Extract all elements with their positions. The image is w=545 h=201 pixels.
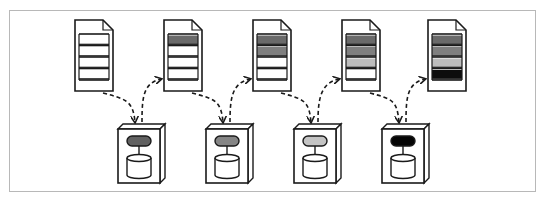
table-row [79, 47, 109, 56]
arrow-down [281, 93, 311, 122]
document-icon [75, 20, 113, 91]
arrow-down [192, 93, 223, 122]
table-row [346, 47, 376, 56]
server-icon [206, 124, 253, 183]
arrow-down [370, 93, 399, 122]
server-icon [382, 124, 429, 183]
database-icon [391, 155, 415, 179]
database-icon [303, 155, 327, 179]
arrow-up [230, 79, 250, 122]
table-row [168, 59, 198, 68]
table-row [432, 47, 462, 56]
document-icon [164, 20, 202, 91]
database-icon [127, 155, 151, 179]
arrow-up [142, 79, 161, 122]
table-row [346, 70, 376, 79]
database-icon [215, 155, 239, 179]
table-row [79, 36, 109, 45]
table-row [79, 70, 109, 79]
process-pill-icon [127, 136, 151, 146]
document-icon [342, 20, 380, 91]
table-row [432, 70, 462, 79]
arrow-down [103, 93, 135, 122]
arrow-up [406, 79, 425, 122]
servers-layer [118, 124, 429, 183]
table-row [432, 59, 462, 68]
table-row [79, 59, 109, 68]
table-row [168, 36, 198, 45]
document-icon [428, 20, 466, 91]
table-row [257, 70, 287, 79]
table-row [168, 70, 198, 79]
document-icon [253, 20, 291, 91]
table-row [168, 47, 198, 56]
pipeline-diagram [0, 0, 545, 201]
process-pill-icon [391, 136, 415, 146]
process-pill-icon [303, 136, 327, 146]
table-row [432, 36, 462, 45]
documents-layer [75, 20, 466, 91]
table-row [257, 59, 287, 68]
table-row [346, 36, 376, 45]
table-row [257, 47, 287, 56]
arrow-up [318, 79, 339, 122]
process-pill-icon [215, 136, 239, 146]
server-icon [118, 124, 165, 183]
table-row [257, 36, 287, 45]
server-icon [294, 124, 341, 183]
table-row [346, 59, 376, 68]
